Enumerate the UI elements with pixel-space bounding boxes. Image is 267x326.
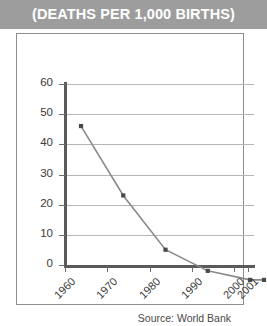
x-axis-label: 1980 [131, 275, 162, 306]
x-axis-label: 1960 [46, 275, 77, 306]
y-axis-label: 60 [23, 76, 53, 88]
y-axis-tick [59, 144, 65, 145]
y-axis-label: 20 [23, 197, 53, 209]
y-axis-label: 30 [23, 167, 53, 179]
x-axis-line [64, 265, 255, 268]
page-title: (DEATHS PER 1,000 BIRTHS) [0, 0, 267, 29]
y-axis-tick [59, 265, 65, 266]
x-axis-tick [65, 267, 66, 272]
data-point-marker [206, 269, 210, 273]
plot-area [65, 84, 254, 265]
y-axis-tick [59, 235, 65, 236]
x-axis-tick [150, 267, 151, 272]
y-axis-tick [59, 205, 65, 206]
gridline [65, 144, 254, 145]
data-point-marker [262, 278, 266, 282]
y-axis-tick [59, 175, 65, 176]
gridline [65, 114, 254, 115]
gridline [65, 205, 254, 206]
gridline [65, 84, 254, 85]
x-axis-tick [234, 267, 235, 272]
x-axis-tick [248, 267, 249, 272]
source-note: Source: World Bank [138, 312, 231, 324]
header-band: (DEATHS PER 1,000 BIRTHS) [0, 0, 267, 29]
y-axis-label: 50 [23, 106, 53, 118]
gridline [65, 175, 254, 176]
chart-card: Source: World Bank 010203040506019601970… [16, 33, 244, 305]
x-axis-label: 1970 [89, 275, 120, 306]
y-axis-label: 40 [23, 136, 53, 148]
y-axis-tick [59, 84, 65, 85]
y-axis-label: 10 [23, 227, 53, 239]
x-axis-tick [107, 267, 108, 272]
y-axis-tick [59, 114, 65, 115]
x-axis-tick [192, 267, 193, 272]
x-axis-label: 1990 [173, 275, 204, 306]
gridline [65, 235, 254, 236]
y-axis-label: 0 [23, 257, 53, 269]
